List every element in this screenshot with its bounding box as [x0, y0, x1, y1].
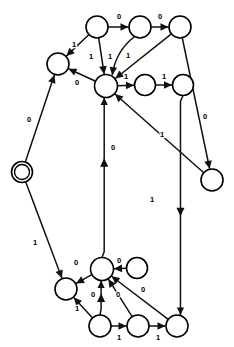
- edge-bottom-a-to-lower-left-label: 1: [75, 304, 79, 313]
- state-top-b[interactable]: [129, 16, 151, 38]
- edge-top-a-to-hub: [99, 38, 107, 74]
- edge-bottom-b-to-lower-hub-label: 0: [116, 290, 120, 299]
- edge-bottom-a-to-lower-hub-label: 0: [91, 290, 95, 299]
- state-top-c[interactable]: [169, 16, 191, 38]
- edge-bottom-a-to-bottom-b: [111, 322, 127, 330]
- edge-top-a-to-top-b: [108, 23, 129, 31]
- edge-top-c-to-hub-label: 1: [126, 51, 130, 60]
- state-bottom-c[interactable]: [166, 315, 188, 337]
- edge-bottom-b-to-bottom-c-label: 1: [156, 333, 160, 342]
- state-bottom-b[interactable]: [127, 315, 149, 337]
- edge-bottom-b-to-lower-hub: [108, 279, 132, 317]
- edge-start-to-lower-left-label: 1: [33, 238, 37, 247]
- edge-top-b-to-top-c-label: 0: [158, 12, 162, 21]
- state-hub[interactable]: [95, 75, 118, 98]
- edge-top-a-to-top-b-label: 0: [117, 12, 121, 21]
- state-transition-graph: 0011000000111111111100110011110000000000…: [0, 0, 234, 347]
- state-mid-right-a[interactable]: [135, 75, 156, 96]
- edge-upper-left-to-top-a-rev: [66, 35, 89, 57]
- edge-top-b-to-top-c: [151, 23, 169, 31]
- edge-lower-hub-to-lower-left: [76, 275, 92, 284]
- edge-lower-hub-to-lower-left-label: 0: [74, 258, 78, 267]
- state-top-a[interactable]: [86, 16, 108, 38]
- edge-bottom-a-to-lower-hub: [97, 281, 105, 316]
- edge-hub-to-upper-left-label: 0: [75, 78, 79, 87]
- edge-mid-right-a-to-b-label: 1: [162, 72, 166, 81]
- state-lower-hub[interactable]: [91, 258, 114, 281]
- state-lower-top-r[interactable]: [127, 258, 148, 279]
- edge-start-to-lower-left: [26, 182, 63, 278]
- edge-mid-right-a-to-b: [156, 81, 173, 89]
- edge-start-to-upper-left-label: 0: [27, 115, 31, 124]
- edge-hub-to-mid-right-a: [118, 82, 135, 90]
- edge-top-b-to-hub: [110, 37, 135, 76]
- state-bottom-a[interactable]: [89, 315, 111, 337]
- edge-bottom-c-to-lower-hub-label: 0: [141, 285, 145, 294]
- edge-top-c-to-right-low-label: 0: [203, 112, 207, 121]
- nodes-layer: [12, 16, 224, 337]
- edge-lower-top-r-to-lower-hub-label: 0: [117, 256, 121, 265]
- diagram-canvas: 0011000000111111111100110011110000000000…: [0, 0, 234, 347]
- start-accept-state[interactable]: [12, 162, 33, 183]
- edge-upper-left-to-top-a-rev-label: 1: [72, 40, 76, 49]
- edge-top-b-to-hub-label: 1: [108, 52, 112, 61]
- edge-lower-hub-up-to-hub: [100, 98, 108, 258]
- edge-mid-right-b-down-to-bottom-c: [176, 96, 184, 316]
- state-right-low[interactable]: [201, 169, 223, 191]
- edge-bottom-a-to-bottom-b-label: 1: [117, 333, 121, 342]
- edge-mid-right-b-down-to-bottom-c-label: 1: [150, 195, 154, 204]
- state-upper-left[interactable]: [47, 53, 69, 75]
- edge-hub-to-upper-left: [68, 69, 95, 82]
- edge-top-a-to-hub-label: 1: [89, 52, 93, 61]
- state-mid-right-b[interactable]: [173, 75, 194, 96]
- edge-right-low-to-hub-label: 1: [160, 130, 164, 139]
- edge-lower-hub-up-to-hub-label: 0: [111, 143, 115, 152]
- edge-bottom-b-to-bottom-c: [149, 322, 166, 330]
- edge-lower-top-r-to-lower-hub: [114, 265, 127, 273]
- edge-top-c-to-right-low: [182, 38, 212, 169]
- edge-hub-to-mid-right-a-label: 1: [124, 72, 128, 81]
- state-lower-left[interactable]: [55, 278, 77, 300]
